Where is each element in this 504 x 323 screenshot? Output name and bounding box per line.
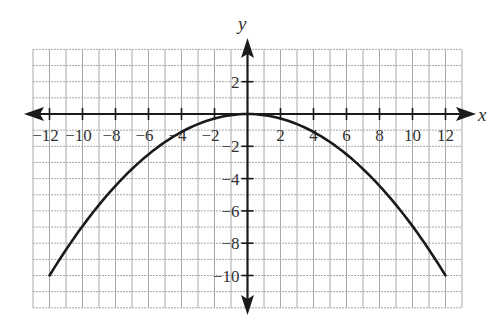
y-tick-label: −6	[221, 202, 239, 221]
x-tick-label: −12	[32, 126, 59, 145]
x-tick-label: 10	[404, 126, 421, 145]
y-tick-label: −10	[213, 267, 240, 286]
x-tick-label: −8	[102, 126, 120, 145]
x-tick-label: −10	[65, 126, 92, 145]
parabola-graph: x y −12−10−8−6−4−2246810122−2−4−6−8−10	[0, 0, 504, 323]
axes: x y	[24, 13, 487, 315]
y-axis-label: y	[236, 13, 247, 34]
x-axis-label: x	[477, 104, 487, 125]
x-tick-label: −6	[135, 126, 153, 145]
y-tick-label: −4	[221, 170, 240, 189]
x-tick-label: 8	[375, 126, 384, 145]
y-tick-label: −8	[221, 234, 239, 253]
x-tick-label: −2	[201, 126, 219, 145]
x-tick-label: 2	[276, 126, 285, 145]
x-tick-label: 12	[437, 126, 454, 145]
y-tick-label: −2	[221, 137, 239, 156]
x-tick-label: 6	[342, 126, 351, 145]
y-tick-label: 2	[231, 73, 240, 92]
x-tick-label: 4	[309, 126, 318, 145]
